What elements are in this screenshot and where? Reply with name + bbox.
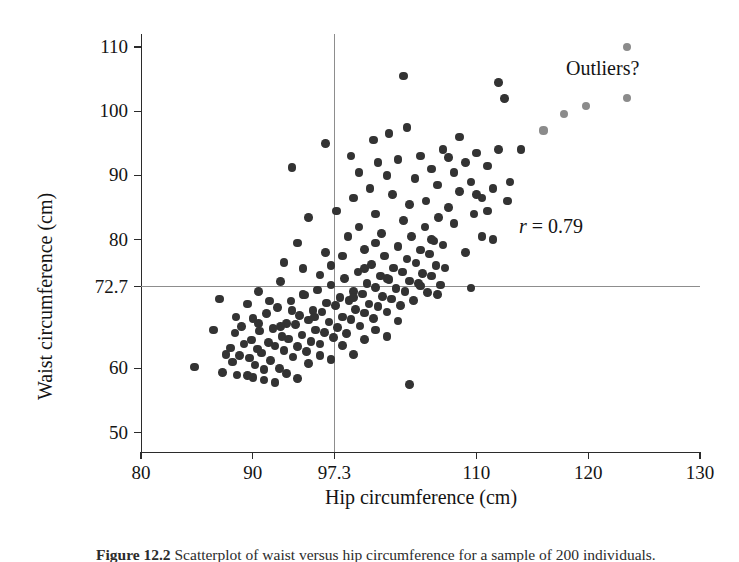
y-tick-label: 90 — [0, 165, 128, 184]
data-point — [383, 171, 392, 180]
data-point — [436, 281, 445, 290]
data-point — [332, 207, 341, 216]
data-point — [282, 369, 291, 378]
data-point — [360, 335, 369, 344]
data-point — [235, 351, 244, 360]
data-point — [416, 282, 425, 291]
y-tick — [134, 368, 141, 369]
data-point — [310, 313, 319, 322]
data-point — [363, 279, 372, 288]
data-point — [401, 287, 410, 296]
data-point — [478, 232, 487, 241]
y-tick — [134, 286, 141, 287]
caption-text: Scatterplot of waist versus hip circumfe… — [175, 546, 656, 562]
figure-scatterplot: 506072.78090100110 809097.3110120130 Hip… — [0, 0, 739, 562]
data-point — [405, 380, 414, 389]
outliers-annotation: Outliers? — [566, 57, 639, 80]
data-point — [254, 287, 263, 296]
data-point — [472, 149, 481, 158]
x-axis-line — [141, 452, 701, 453]
data-point — [427, 272, 436, 281]
data-point — [500, 94, 509, 103]
data-point — [304, 359, 313, 368]
x-tick-label: 130 — [655, 463, 739, 482]
data-point — [291, 320, 300, 329]
y-tick-label-wrap: 100 — [0, 101, 128, 120]
data-point — [403, 123, 412, 132]
data-point — [398, 268, 407, 277]
data-point — [407, 232, 416, 241]
y-tick-label: 72.7 — [0, 277, 128, 296]
data-point — [383, 274, 392, 283]
data-point — [371, 326, 380, 335]
data-point — [209, 326, 218, 335]
data-point — [394, 155, 403, 164]
data-point — [444, 203, 453, 212]
data-point — [311, 326, 320, 335]
data-point — [444, 153, 453, 162]
data-point — [399, 216, 408, 225]
data-point — [260, 365, 269, 374]
data-point — [378, 292, 387, 301]
data-point — [329, 333, 338, 342]
data-point — [433, 290, 442, 299]
data-point — [405, 277, 414, 286]
plot-area — [141, 34, 700, 452]
data-point — [388, 190, 397, 199]
data-point — [255, 327, 264, 336]
y-tick — [134, 432, 141, 433]
data-point — [338, 313, 347, 322]
data-point — [273, 303, 282, 312]
data-point — [293, 239, 302, 248]
data-point — [409, 296, 418, 305]
y-axis-line — [141, 34, 142, 453]
data-point — [313, 286, 322, 295]
data-point — [418, 269, 427, 278]
data-point — [340, 274, 349, 283]
data-point — [284, 335, 293, 344]
data-point — [338, 341, 347, 350]
data-point — [302, 347, 311, 356]
y-tick-label-wrap: 50 — [0, 423, 128, 442]
data-point — [316, 351, 325, 360]
x-tick — [699, 452, 700, 459]
data-point — [321, 248, 330, 257]
data-point — [299, 290, 308, 299]
correlation-annotation: r = 0.79 — [519, 215, 583, 238]
y-tick-label: 110 — [0, 37, 128, 56]
data-point — [338, 252, 347, 261]
data-point — [218, 368, 227, 377]
data-point — [293, 374, 302, 383]
data-point — [427, 235, 436, 244]
data-point — [394, 242, 403, 251]
x-tick-label: 110 — [431, 463, 521, 482]
outlier-point — [539, 126, 547, 134]
data-point — [215, 295, 224, 304]
y-tick — [134, 175, 141, 176]
data-point — [358, 290, 367, 299]
data-point — [322, 299, 331, 308]
data-point — [327, 355, 336, 364]
data-point — [377, 229, 386, 238]
data-point — [342, 329, 351, 338]
y-tick-label: 100 — [0, 101, 128, 120]
data-point — [351, 305, 360, 314]
data-point — [489, 184, 498, 193]
x-tick-label: 97.3 — [289, 463, 379, 482]
y-tick — [134, 46, 141, 47]
data-point — [321, 139, 330, 148]
y-tick-label-wrap: 90 — [0, 165, 128, 184]
data-point — [243, 300, 252, 309]
x-tick-label: 90 — [208, 463, 298, 482]
reference-line-x-mean — [334, 34, 335, 452]
y-tick-label: 50 — [0, 423, 128, 442]
x-tick — [140, 452, 141, 459]
data-point — [344, 232, 353, 241]
y-tick-label-wrap: 110 — [0, 37, 128, 56]
data-point — [383, 332, 392, 341]
correlation-symbol: r — [519, 215, 527, 237]
data-point — [369, 314, 378, 323]
data-point — [288, 306, 297, 315]
data-point — [425, 250, 434, 259]
data-point — [262, 309, 271, 318]
